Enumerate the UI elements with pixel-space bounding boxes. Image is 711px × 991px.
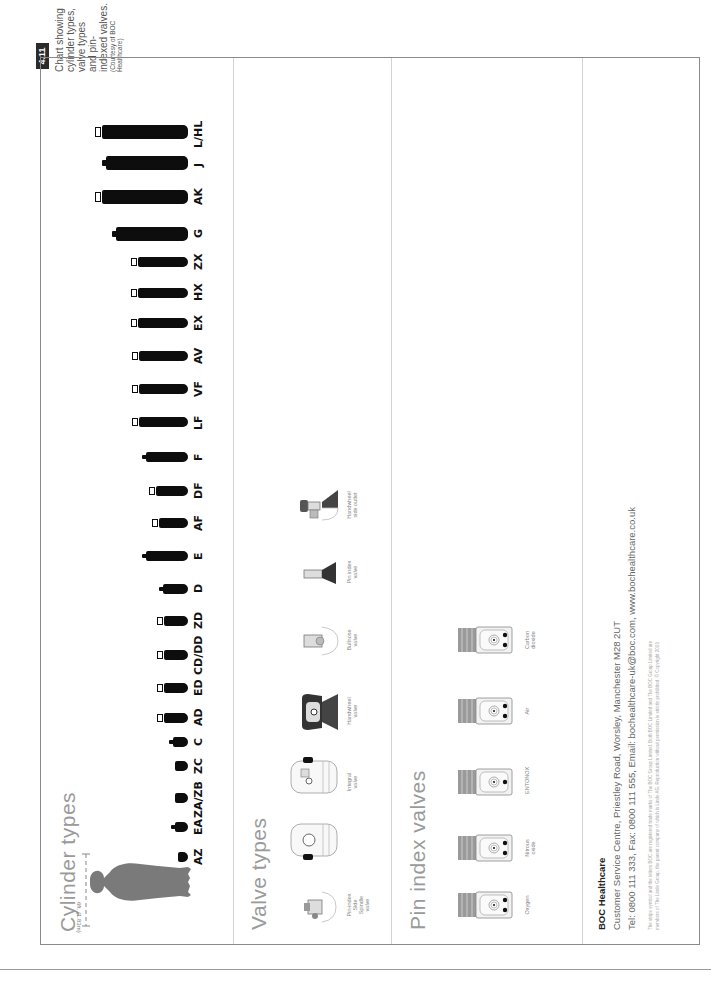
cylinder-cap-icon: [157, 714, 163, 722]
cylinder-shape-icon: [106, 156, 188, 170]
cylinder-cap-icon: [132, 385, 138, 393]
cylinder-shape-icon: [175, 793, 188, 803]
pin-index-valve-face-icon: [458, 625, 514, 655]
section-divider: [582, 58, 583, 944]
cylinder-label: L/HL: [192, 121, 205, 148]
cylinder-shape-icon: [164, 616, 188, 626]
footer-company: BOC Healthcare: [596, 858, 607, 930]
cylinder-shape-icon: [178, 852, 188, 862]
cylinder-shape-icon: [146, 551, 188, 561]
pin-index-label: Carbon dioxide: [524, 628, 536, 652]
cylinder-cap-icon: [95, 192, 101, 202]
cylinder-neck-icon: [142, 554, 147, 558]
cylinder-shape-icon: [138, 257, 188, 267]
cylinder-label: AZ: [192, 849, 205, 866]
cylinder-shape-icon: [173, 737, 188, 747]
cylinder-label: F: [192, 453, 205, 461]
cylinder-label: EA: [192, 819, 205, 835]
handwheel-side-outlet-icon: [298, 488, 340, 524]
cylinder-shape-icon: [139, 384, 188, 394]
cylinder-label: VF: [192, 381, 205, 397]
cylinder-shape-icon: [163, 584, 188, 594]
cylinder-shape-icon: [175, 761, 188, 771]
cylinder-label: AV: [192, 348, 205, 364]
valve-label: Integral valve: [346, 767, 358, 797]
cylinder-neck-icon: [159, 587, 164, 591]
footer-legal-1: The stripe symbol and the letters BOC ar…: [648, 641, 654, 930]
pin-index-label: Oxygen: [524, 893, 530, 917]
section-divider: [391, 58, 392, 944]
cylinder-shape-icon: [164, 650, 188, 660]
cylinder-label: ZA/ZB: [192, 781, 205, 818]
cylinder-label: E: [192, 552, 205, 560]
cylinder-neck-icon: [102, 160, 107, 166]
cylinder-label: D: [192, 584, 205, 593]
cylinder-cap-icon: [132, 352, 138, 360]
cylinder-cap-icon: [131, 289, 137, 297]
pin-index-valves-title: Pin index valves: [406, 770, 430, 930]
pin-index-valve-face-icon: [458, 833, 514, 863]
handwheel-valve-icon: [300, 692, 340, 732]
cylinder-label: ZX: [192, 254, 205, 270]
valve-types-title: Valve types: [247, 818, 271, 931]
cylinder-cap-icon: [131, 319, 137, 327]
cylinder-shape-icon: [102, 190, 188, 204]
valve-label: Bullnose valve: [346, 625, 358, 655]
page-rule: [0, 969, 711, 970]
footer-legal-2: members of The Linde Group, the parent c…: [655, 642, 661, 930]
cylinder-shape-icon: [102, 125, 188, 139]
cylinder-cap-icon: [157, 684, 163, 692]
cylinder-shape-icon: [138, 288, 188, 298]
cylinder-label: AK: [192, 188, 205, 205]
cylinder-label: G: [192, 229, 205, 238]
scale-label: 6ft. (1.83m): [76, 902, 82, 933]
pin-index-valve-face-icon: [458, 890, 514, 920]
cylinder-label: AD: [192, 708, 205, 726]
cylinder-shape-icon: [159, 518, 188, 528]
pin-index-label: Nitrous oxide: [524, 836, 536, 860]
cylinder-shape-icon: [164, 713, 188, 723]
cylinder-label: EX: [192, 315, 205, 331]
cylinder-shape-icon: [175, 822, 188, 832]
pin-index-side-spindle-valve-icon: [302, 888, 338, 926]
pin-index-valve-face-icon: [458, 696, 514, 726]
cylinder-label: ED: [192, 679, 205, 696]
footer-contact: Tel: 0800 111 333, Fax: 0800 111 555, Em…: [626, 507, 637, 930]
cylinder-shape-icon: [164, 683, 188, 693]
pin-index-label: Air: [524, 699, 530, 723]
cylinder-neck-icon: [171, 825, 176, 829]
section-divider: [233, 58, 234, 944]
cylinder-label: ZC: [192, 758, 205, 774]
cylinder-cap-icon: [157, 651, 163, 659]
cylinder-label: AF: [192, 515, 205, 531]
cylinder-cap-icon: [149, 487, 155, 495]
cylinder-cap-icon: [152, 519, 158, 527]
integral-valve-back-icon: [285, 757, 341, 797]
cylinder-label: HX: [192, 283, 205, 301]
pin-index-label: ENTONOX: [524, 770, 530, 794]
cylinder-cap-icon: [131, 258, 137, 266]
cylinder-label: ZD: [192, 612, 205, 629]
cylinder-shape-icon: [138, 318, 188, 328]
cylinder-neck-icon: [169, 740, 174, 744]
cylinder-label: CD/DD: [192, 636, 205, 675]
valve-label: Handwheel side outlet: [346, 490, 358, 520]
cylinder-shape-icon: [139, 351, 188, 361]
bullnose-valve-icon: [300, 625, 340, 657]
cylinder-shape-icon: [116, 227, 188, 241]
valve-label: Pin-index Side Spindle valve: [346, 890, 370, 920]
valve-label: Pin index valve: [346, 557, 358, 587]
pin-index-valve-face-icon: [458, 767, 514, 797]
valve-label: Handwheel valve: [346, 696, 358, 726]
cylinder-label: J: [192, 163, 205, 167]
cylinder-neck-icon: [112, 231, 117, 237]
cylinder-neck-icon: [142, 455, 147, 459]
cylinder-label: C: [192, 738, 205, 746]
cylinder-cap-icon: [132, 418, 138, 426]
pin-index-valve-icon: [300, 560, 340, 586]
cylinder-label: LF: [192, 415, 205, 430]
footer-address: Customer Service Centre, Priestley Road,…: [611, 621, 622, 930]
cylinder-cap-icon: [157, 617, 163, 625]
cylinder-label: DF: [192, 482, 205, 499]
integral-valve-front-icon: [285, 820, 341, 860]
